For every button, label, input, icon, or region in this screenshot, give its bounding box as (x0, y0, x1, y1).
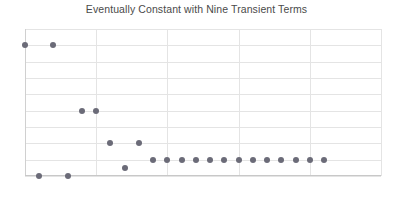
data-point (207, 157, 213, 163)
data-point (107, 140, 113, 146)
data-point (93, 108, 99, 114)
chart-title: Eventually Constant with Nine Transient … (0, 3, 393, 15)
data-point (264, 157, 270, 163)
data-point (164, 157, 170, 163)
gridline-horizontal (25, 29, 381, 30)
gridline-vertical (381, 29, 382, 176)
gridline-horizontal (25, 62, 381, 63)
gridline-horizontal (25, 127, 381, 128)
data-point (136, 140, 142, 146)
gridline-horizontal (25, 78, 381, 79)
data-point (50, 42, 56, 48)
gridline-vertical (96, 29, 97, 176)
data-point (293, 157, 299, 163)
data-point (22, 42, 28, 48)
data-point (122, 165, 128, 171)
y-axis-line (25, 29, 26, 176)
data-point (150, 157, 156, 163)
data-point (250, 157, 256, 163)
data-point (79, 108, 85, 114)
data-point (193, 157, 199, 163)
data-point (278, 157, 284, 163)
data-point (236, 157, 242, 163)
data-point (65, 173, 71, 179)
gridline-horizontal (25, 176, 381, 177)
gridline-horizontal (25, 45, 381, 46)
chart-container: Eventually Constant with Nine Transient … (0, 0, 393, 203)
data-point (179, 157, 185, 163)
plot-area: 0123456789 0510152025 (25, 29, 381, 176)
gridline-horizontal (25, 143, 381, 144)
x-axis-line (25, 175, 381, 176)
gridline-vertical (167, 29, 168, 176)
data-point (221, 157, 227, 163)
gridline-vertical (239, 29, 240, 176)
data-point (321, 157, 327, 163)
data-point (307, 157, 313, 163)
gridline-horizontal (25, 94, 381, 95)
gridline-horizontal (25, 160, 381, 161)
gridline-vertical (310, 29, 311, 176)
data-point (36, 173, 42, 179)
